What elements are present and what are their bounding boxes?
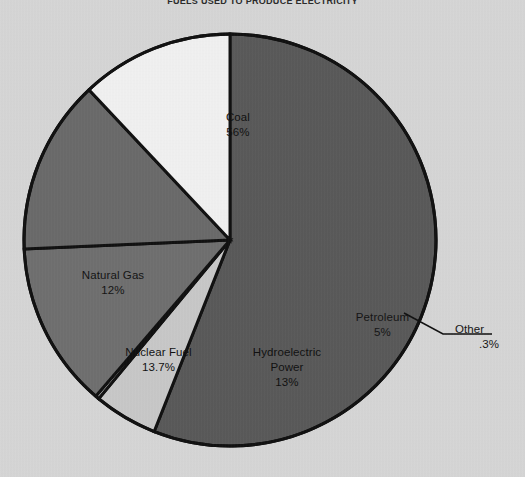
pie-label-hydroelectric-power-name: Hydroelectric bbox=[228, 345, 346, 360]
pie-label-coal-name: Coal bbox=[178, 110, 298, 125]
pie-label-coal-value: 56% bbox=[178, 125, 298, 140]
pie-label-other: Other .3% bbox=[455, 322, 517, 352]
pie-label-petroleum-name: Petroleum bbox=[330, 310, 435, 325]
pie-label-coal: Coal 56% bbox=[178, 110, 298, 140]
pie-label-natural-gas-value: 12% bbox=[48, 283, 178, 298]
pie-label-natural-gas-name: Natural Gas bbox=[48, 268, 178, 283]
pie-label-petroleum: Petroleum 5% bbox=[330, 310, 435, 340]
pie-label-nuclear-fuel-value: 13.7% bbox=[96, 360, 221, 375]
pie-label-natural-gas: Natural Gas 12% bbox=[48, 268, 178, 298]
chart-title: FUELS USED TO PRODUCE ELECTRICITY bbox=[0, 0, 525, 5]
pie-label-nuclear-fuel-name: Nuclear Fuel bbox=[96, 345, 221, 360]
pie-label-hydroelectric-power: Hydroelectric Power 13% bbox=[228, 345, 346, 390]
pie-label-nuclear-fuel: Nuclear Fuel 13.7% bbox=[96, 345, 221, 375]
pie-label-other-value: .3% bbox=[455, 337, 517, 352]
pie-label-hydroelectric-power-name2: Power bbox=[228, 360, 346, 375]
pie-label-other-name: Other bbox=[455, 322, 517, 337]
pie-label-petroleum-value: 5% bbox=[330, 325, 435, 340]
pie-chart bbox=[0, 0, 525, 477]
pie-label-hydroelectric-power-value: 13% bbox=[228, 375, 346, 390]
